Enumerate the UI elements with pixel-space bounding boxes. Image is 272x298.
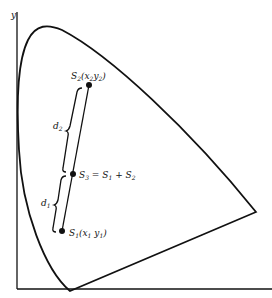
y-axis-label: y (10, 10, 17, 20)
point-label-s2: S2(x2y2) (71, 71, 106, 82)
point-label-s3: S3 = S1 + S2 (79, 170, 136, 181)
chromaticity-diagram: y d2 d1 S2(x2y2) S3 = S1 + S2 S1(x1 y1) (0, 0, 272, 298)
point-s3 (70, 171, 76, 177)
brace-d2 (63, 88, 82, 172)
distance-label-d2: d2 (53, 121, 63, 132)
point-s2 (86, 82, 92, 88)
spectral-locus-curve (18, 26, 256, 291)
point-s1 (59, 228, 65, 234)
mixing-line (62, 85, 89, 231)
point-label-s1: S1(x1 y1) (69, 228, 107, 239)
distance-label-d1: d1 (41, 198, 51, 209)
